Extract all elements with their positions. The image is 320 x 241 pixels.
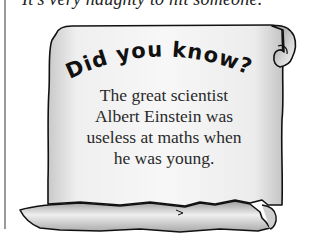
fact-line: Albert Einstein was bbox=[64, 106, 264, 127]
fact-line: useless at maths when bbox=[64, 127, 264, 148]
svg-text:Did you know?: Did you know? bbox=[62, 40, 256, 83]
fact-line: The great scientist bbox=[64, 85, 264, 106]
fact-line: he was young. bbox=[64, 148, 264, 169]
fact-text: The great scientist Albert Einstein was … bbox=[64, 85, 264, 169]
did-you-know-heading: Did you know? bbox=[60, 40, 270, 88]
